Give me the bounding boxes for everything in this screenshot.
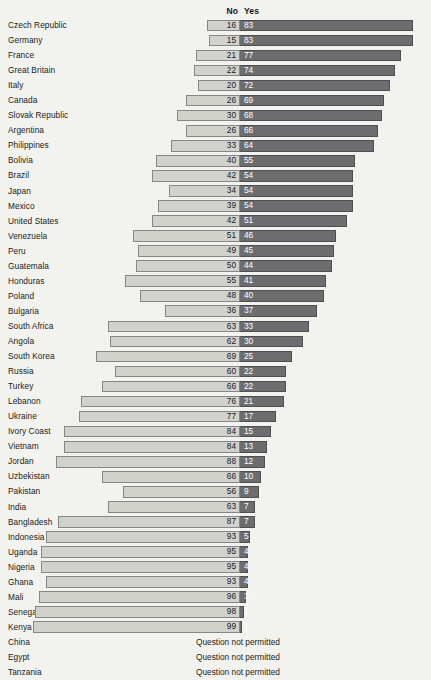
chart-row: South Korea6925: [0, 349, 431, 364]
row-bars: 3364: [0, 140, 431, 152]
chart-row: Honduras5541: [0, 274, 431, 289]
chart-row: Jordan8812: [0, 454, 431, 469]
value-yes: 21: [244, 396, 276, 408]
value-yes: 51: [244, 215, 276, 227]
value-yes: 74: [244, 65, 276, 77]
value-yes: 40: [244, 290, 276, 302]
row-bars: 6925: [0, 351, 431, 363]
row-bars: 2666: [0, 125, 431, 137]
value-no: 84: [206, 441, 236, 453]
value-no: 39: [206, 200, 236, 212]
row-bars: 2669: [0, 95, 431, 107]
row-bars: 1583: [0, 35, 431, 47]
value-no: 56: [206, 486, 236, 498]
row-bars: 954: [0, 561, 431, 573]
row-country-label: Egypt: [8, 650, 29, 665]
question-not-permitted-note: Question not permitted: [196, 635, 280, 650]
bar-yes: [240, 621, 242, 633]
value-yes: 5: [244, 531, 276, 543]
value-yes: 54: [244, 170, 276, 182]
value-no: 76: [206, 396, 236, 408]
row-bars: 4840: [0, 290, 431, 302]
row-bars: 4945: [0, 245, 431, 257]
value-yes: 4: [244, 561, 276, 573]
column-header-no: No: [208, 4, 238, 18]
chart-row: Poland4840: [0, 289, 431, 304]
chart-row: Venezuela5146: [0, 229, 431, 244]
value-no: 93: [206, 576, 236, 588]
value-yes: 83: [244, 35, 276, 47]
row-bars: 4251: [0, 215, 431, 227]
value-yes: 45: [244, 245, 276, 257]
value-no: 55: [206, 275, 236, 287]
value-no: 98: [206, 606, 236, 618]
value-no: 30: [206, 110, 236, 122]
value-no: 49: [206, 245, 236, 257]
chart-row: Nigeria954: [0, 560, 431, 575]
chart-row: TanzaniaQuestion not permitted: [0, 665, 431, 680]
chart-row: Indonesia935: [0, 530, 431, 545]
value-yes: 66: [244, 125, 276, 137]
chart-row: Canada2669: [0, 93, 431, 108]
value-no: 95: [206, 546, 236, 558]
chart-legend-header: No Yes: [0, 4, 431, 18]
row-bars: 5146: [0, 230, 431, 242]
chart-row: ChinaQuestion not permitted: [0, 635, 431, 650]
chart-row: United States4251: [0, 214, 431, 229]
value-yes: 4: [244, 576, 276, 588]
chart-row: India637: [0, 500, 431, 515]
chart-row: Great Britain2274: [0, 63, 431, 78]
row-country-label: China: [8, 635, 30, 650]
row-bars: 963: [0, 591, 431, 603]
chart-row: Uzbekistan6610: [0, 469, 431, 484]
value-yes: 15: [244, 426, 276, 438]
row-bars: 4055: [0, 155, 431, 167]
chart-rows: Czech Republic1683Germany1583France2177G…: [0, 18, 431, 680]
chart-row: Peru4945: [0, 244, 431, 259]
value-yes: 17: [244, 411, 276, 423]
chart-row: Italy2072: [0, 78, 431, 93]
value-no: 42: [206, 215, 236, 227]
value-yes: 3: [244, 591, 276, 603]
chart-row: Ivory Coast8415: [0, 424, 431, 439]
chart-row: EgyptQuestion not permitted: [0, 650, 431, 665]
value-yes: 33: [244, 321, 276, 333]
value-yes: 9: [244, 486, 276, 498]
column-header-yes: Yes: [244, 4, 274, 18]
chart-row: Philippines3364: [0, 138, 431, 153]
value-no: 21: [206, 50, 236, 62]
row-bars: 8415: [0, 426, 431, 438]
value-yes: 44: [244, 260, 276, 272]
value-yes: 1: [244, 621, 276, 633]
chart-row: Russia6022: [0, 364, 431, 379]
value-yes: 72: [244, 80, 276, 92]
value-no: 16: [206, 20, 236, 32]
chart-row: Senegal982: [0, 605, 431, 620]
value-no: 20: [206, 80, 236, 92]
value-yes: 12: [244, 456, 276, 468]
value-yes: 7: [244, 501, 276, 513]
value-yes: 2: [244, 606, 276, 618]
value-no: 66: [206, 471, 236, 483]
value-no: 40: [206, 155, 236, 167]
value-no: 87: [206, 516, 236, 528]
row-bars: 991: [0, 621, 431, 633]
row-bars: 5044: [0, 260, 431, 272]
row-bars: 877: [0, 516, 431, 528]
value-no: 33: [206, 140, 236, 152]
value-no: 63: [206, 501, 236, 513]
row-country-label: Tanzania: [8, 665, 42, 680]
value-yes: 41: [244, 275, 276, 287]
value-no: 26: [206, 95, 236, 107]
row-bars: 982: [0, 606, 431, 618]
value-no: 48: [206, 290, 236, 302]
value-no: 84: [206, 426, 236, 438]
row-bars: 2177: [0, 50, 431, 62]
value-yes: 10: [244, 471, 276, 483]
row-bars: 569: [0, 486, 431, 498]
value-no: 99: [206, 621, 236, 633]
value-no: 93: [206, 531, 236, 543]
row-bars: 935: [0, 531, 431, 543]
value-no: 96: [206, 591, 236, 603]
